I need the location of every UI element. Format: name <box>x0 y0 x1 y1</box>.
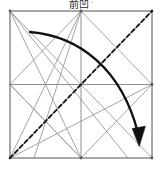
crease-pattern-canvas <box>0 0 163 169</box>
vertex-top-mid-dot <box>80 10 83 13</box>
vertex-bottom-right-dot <box>151 157 154 160</box>
vertex-top-left-dot <box>9 10 12 13</box>
vertex-right-mid-dot <box>151 83 154 86</box>
origami-figure: 前凹◦ <box>0 0 163 169</box>
fold-arrow-head-icon <box>132 126 145 146</box>
vertex-bottom-mid-dot <box>80 157 83 160</box>
